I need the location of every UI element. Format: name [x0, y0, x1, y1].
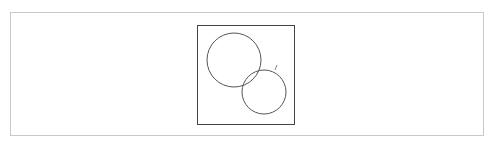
venn-diagram	[0, 0, 496, 146]
venn-circle-a	[207, 33, 261, 87]
tick-mark	[275, 65, 277, 70]
venn-circle-b	[242, 70, 286, 114]
